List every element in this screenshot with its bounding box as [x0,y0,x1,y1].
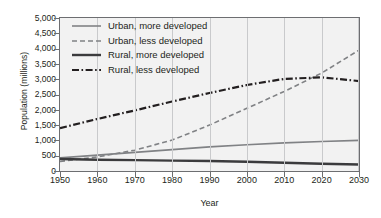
legend-line-swatch [72,65,101,75]
legend-item[interactable]: Urban, more developed [72,21,207,31]
legend-line-swatch [72,36,101,46]
legend-item[interactable]: Rural, more developed [72,50,207,60]
y-tick-label: 500 [0,151,56,160]
gridline [210,18,211,171]
y-tick-label: 3,500 [0,60,56,69]
y-tick-label: 1,000 [0,136,56,145]
y-tick-label: 0 [0,167,56,176]
legend-label: Urban, more developed [108,21,207,31]
y-tick-label: 3,000 [0,75,56,84]
y-tick-label: 2,000 [0,106,56,115]
legend-item[interactable]: Rural, less developed [72,65,207,75]
y-tick-label: 5,000 [0,14,56,23]
legend-line-swatch [72,50,101,60]
legend-item[interactable]: Urban, less developed [72,36,207,46]
gridline [284,18,285,171]
legend-label: Rural, less developed [108,65,199,75]
legend-label: Rural, more developed [108,50,204,60]
x-axis-title: Year [59,198,360,208]
chart-legend: Urban, more developedUrban, less develop… [72,21,207,75]
y-tick-label: 4,500 [0,29,56,38]
y-tick-label: 4,000 [0,44,56,53]
y-tick-label: 2,500 [0,90,56,99]
gridline [358,18,359,171]
legend-line-swatch [72,21,101,31]
legend-label: Urban, less developed [108,36,203,46]
population-line-chart: Population (millions) 05001,0001,5002,00… [0,0,381,218]
y-tick-label: 1,500 [0,121,56,130]
gridline [247,18,248,171]
gridline [322,18,323,171]
x-tick-label: 2030 [337,176,381,185]
